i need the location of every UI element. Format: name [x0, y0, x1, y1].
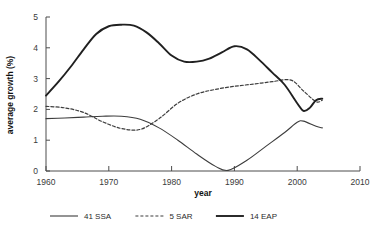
- legend-label: 14 EAP: [250, 212, 277, 221]
- legend-item-5-sar[interactable]: 5 SAR: [135, 212, 192, 221]
- series-lines-group: [46, 25, 322, 171]
- x-axis-tick-marks: [46, 166, 360, 171]
- series-line-5-sar: [46, 80, 322, 131]
- legend-label: 5 SAR: [169, 212, 192, 221]
- x-axis-title: year: [194, 188, 212, 198]
- y-tick-label: 5: [33, 12, 38, 22]
- y-axis-title: average growth (%): [5, 56, 15, 135]
- y-tick-label: 4: [33, 43, 38, 53]
- y-axis-title-group: average growth (%): [5, 56, 15, 135]
- chart-legend: 41 SSA5 SAR14 EAP: [50, 212, 277, 221]
- y-tick-label: 1: [33, 135, 38, 145]
- chart-container: average growth (%) 012345 19601970198019…: [0, 0, 379, 236]
- x-tick-label: 2010: [351, 177, 370, 187]
- y-axis-tick-labels: 012345: [33, 12, 38, 176]
- x-tick-label: 1990: [225, 177, 244, 187]
- y-tick-label: 3: [33, 74, 38, 84]
- x-tick-label: 1960: [37, 177, 56, 187]
- legend-item-14-eap[interactable]: 14 EAP: [216, 212, 277, 221]
- legend-label: 41 SSA: [84, 212, 112, 221]
- y-tick-label: 2: [33, 104, 38, 114]
- series-line-14-eap: [46, 25, 322, 111]
- x-tick-label: 1970: [99, 177, 118, 187]
- line-chart: average growth (%) 012345 19601970198019…: [0, 0, 379, 236]
- x-axis-tick-labels: 196019701980199020002010: [37, 177, 370, 187]
- series-line-41-ssa: [46, 116, 322, 171]
- y-tick-label: 0: [33, 166, 38, 176]
- x-tick-label: 1980: [162, 177, 181, 187]
- x-tick-label: 2000: [288, 177, 307, 187]
- legend-item-41-ssa[interactable]: 41 SSA: [50, 212, 112, 221]
